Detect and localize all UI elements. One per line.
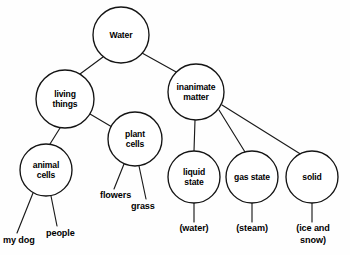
- edge-living-animal: [50, 128, 60, 144]
- node-label-animal: cells: [37, 170, 56, 180]
- edge-water-inanimate: [142, 53, 178, 73]
- node-label-living: living: [54, 89, 76, 99]
- edge-inanimate-solid: [222, 105, 302, 155]
- leaf-label-grass: grass: [131, 201, 155, 211]
- node-solid[interactable]: solid: [286, 151, 338, 203]
- leaf-label-ice-p: (ice andsnow): [296, 223, 330, 245]
- edge-animal-people: [51, 196, 57, 226]
- node-water[interactable]: Water: [93, 7, 149, 63]
- leaf-label-my-dog: my dog: [3, 235, 35, 245]
- edge-inanimate-liquid: [194, 120, 195, 151]
- node-label-plant: cells: [126, 139, 145, 149]
- node-plant[interactable]: plantcells: [108, 112, 162, 166]
- concept-map-diagram: Waterlivingthingsinanimatematterplantcel…: [0, 0, 350, 255]
- node-label-water: Water: [110, 30, 134, 40]
- leaf-label-text-grass: grass: [131, 201, 155, 211]
- leaf-label-steam-p: (steam): [236, 223, 268, 233]
- node-label-inanimate: matter: [183, 92, 209, 102]
- node-gas[interactable]: gas state: [226, 151, 278, 203]
- concept-map-canvas: Waterlivingthingsinanimatematterplantcel…: [0, 0, 350, 255]
- leaf-label-text-water-p: (water): [179, 223, 208, 233]
- leaf-label-text-steam-p: (steam): [236, 223, 268, 233]
- edge-plant-flowers: [114, 164, 124, 189]
- node-animal[interactable]: animalcells: [20, 144, 72, 196]
- edge-animal-mydog: [17, 193, 33, 233]
- node-liquid[interactable]: liquidstate: [168, 151, 220, 203]
- node-label-gas: gas state: [234, 172, 270, 182]
- node-label-liquid: state: [184, 177, 204, 187]
- leaf-label-text-ice-p: snow): [300, 235, 326, 245]
- node-inanimate[interactable]: inanimatematter: [168, 64, 224, 120]
- edge-plant-grass: [139, 166, 146, 199]
- leaf-label-flowers: flowers: [100, 190, 131, 200]
- node-living[interactable]: livingthings: [36, 70, 94, 128]
- node-label-plant: plant: [125, 129, 145, 139]
- leaf-label-text-my-dog: my dog: [3, 235, 35, 245]
- node-label-living: things: [53, 99, 78, 109]
- leaf-label-text-flowers: flowers: [100, 190, 131, 200]
- edge-water-living: [80, 57, 103, 74]
- node-label-inanimate: inanimate: [177, 82, 216, 92]
- leaf-label-people: people: [46, 228, 75, 238]
- leaf-label-text-people: people: [46, 228, 75, 238]
- node-label-solid: solid: [302, 172, 321, 182]
- nodes-group: Waterlivingthingsinanimatematterplantcel…: [20, 7, 338, 203]
- edge-living-plant: [90, 114, 112, 127]
- node-label-liquid: liquid: [183, 167, 205, 177]
- leaf-label-water-p: (water): [179, 223, 208, 233]
- leaf-label-text-ice-p: (ice and: [296, 223, 330, 233]
- node-label-animal: animal: [33, 160, 59, 170]
